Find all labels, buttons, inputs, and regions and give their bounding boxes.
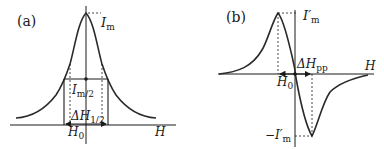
h-axis-label-a: H [154, 125, 166, 139]
width-label-a: ΔH1/2 [70, 109, 105, 125]
width-label-b: ΔHpp [296, 57, 328, 73]
diagram-canvas: (a) Im Im/2 ΔH1/2 H0 H (b) [0, 0, 384, 149]
max-label: I′m [302, 8, 320, 25]
panel-b: (b) I′m −I′m ΔHpp H0 H [218, 8, 376, 147]
half-height-point [84, 77, 88, 81]
h-axis-label-b: H [364, 59, 376, 73]
peak-label: Im [100, 15, 115, 32]
half-label: Im/2 [71, 83, 94, 99]
min-label: −I′m [265, 128, 292, 144]
center-label-b: H0 [276, 75, 293, 91]
panel-a-label: (a) [17, 13, 36, 29]
center-label-a: H0 [67, 125, 84, 141]
panel-a: (a) Im Im/2 ΔH1/2 H0 H [10, 6, 176, 144]
panel-b-label: (b) [226, 9, 246, 25]
